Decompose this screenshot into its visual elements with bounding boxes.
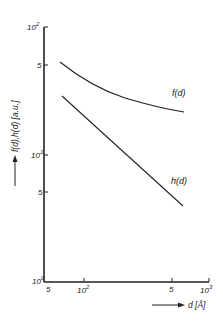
y-tick-label-100: 102 [27, 21, 40, 32]
x-tick-label-100: 102 [77, 284, 90, 295]
x-tick-label-500: 5 [169, 285, 174, 294]
y-tick-label-10: 101 [31, 149, 43, 160]
chart: 102 5 101 5 100 5 102 5 103 f(d) h(d) f(… [0, 0, 223, 323]
x-tick-label-50: 5 [46, 285, 51, 294]
y-tick-label-1: 100 [32, 275, 45, 286]
y-axis-arrow-icon [13, 155, 18, 186]
curve-h [62, 96, 183, 206]
x-axis-arrow-icon [152, 303, 185, 308]
y-tick-label-5: 5 [38, 188, 43, 197]
x-tick-label-1000: 103 [200, 284, 213, 295]
curve-f [60, 62, 184, 112]
y-tick-label-50: 5 [37, 61, 42, 70]
y-axis-title: f(d),h(d) [a.u.] [10, 100, 20, 152]
curve-label-f: f(d) [172, 88, 186, 98]
x-axis-title: d [Å] [188, 300, 206, 310]
curve-label-h: h(d) [171, 176, 187, 186]
